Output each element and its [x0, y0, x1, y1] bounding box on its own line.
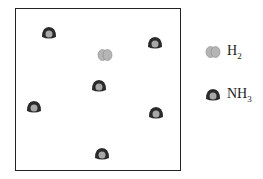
nh3-molecule-icon [149, 107, 163, 119]
h2-molecule-icon [98, 50, 112, 61]
legend-item-nh3: NH3 [205, 86, 252, 104]
nh3-molecule-icon [27, 101, 41, 113]
legend-label-nh3: NH3 [227, 86, 252, 104]
nh3-molecule-icon [148, 37, 162, 49]
h2-molecule-icon [205, 44, 221, 60]
legend-item-h2: H2 [205, 43, 242, 61]
nh3-molecule-icon [92, 80, 106, 92]
legend-label-h2: H2 [227, 43, 242, 61]
nh3-molecule-icon [95, 148, 109, 160]
nh3-molecule-icon [205, 87, 221, 103]
nh3-molecule-icon [42, 27, 56, 39]
